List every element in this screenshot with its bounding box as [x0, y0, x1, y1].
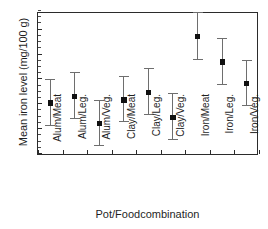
mean-marker	[195, 34, 200, 39]
y-minor-tick	[38, 16, 41, 17]
x-axis-title: Pot/Foodcombination	[37, 208, 258, 220]
mean-marker	[220, 59, 225, 64]
y-minor-tick	[38, 147, 41, 148]
x-tick-label: Clay/Veg.	[176, 94, 186, 158]
y-minor-tick	[38, 134, 41, 135]
x-tick-label: Alum/Veg.	[102, 94, 112, 158]
error-bar-cap-upper	[193, 12, 203, 13]
y-minor-tick	[38, 109, 41, 110]
y-tick-mark	[38, 54, 42, 55]
y-minor-tick	[38, 10, 41, 11]
error-bar-cap-upper	[45, 79, 55, 80]
error-bar-cap-upper	[242, 60, 252, 61]
y-minor-tick	[38, 35, 41, 36]
y-tick-mark	[38, 103, 42, 104]
y-minor-tick	[38, 41, 41, 42]
y-axis-title: Mean iron level (mg/100 g)	[17, 2, 29, 162]
x-tick-label: Iron/Veg.	[250, 94, 260, 158]
x-tick-label: Alum/Meat	[53, 94, 63, 158]
y-tick-mark	[38, 78, 42, 79]
y-minor-tick	[38, 60, 41, 61]
error-bar-cap-lower	[193, 59, 203, 60]
iron-level-errorbar-chart: Mean iron level (mg/100 g) 012345 Alum/M…	[0, 0, 268, 229]
x-tick-label: Clay/Leg.	[152, 94, 162, 158]
y-minor-tick	[38, 91, 41, 92]
mean-marker	[244, 81, 249, 86]
y-minor-tick	[38, 141, 41, 142]
y-tick-mark	[38, 29, 42, 30]
y-minor-tick	[38, 47, 41, 48]
x-tick-label: Iron/Leg.	[225, 94, 235, 158]
y-tick-mark	[38, 128, 42, 129]
error-bar-cap-upper	[70, 72, 80, 73]
y-minor-tick	[38, 85, 41, 86]
x-tick-label: Alum/Leg.	[78, 94, 88, 158]
y-minor-tick	[38, 97, 41, 98]
error-bar-cap-lower	[217, 84, 227, 85]
x-tick-mark	[38, 150, 39, 154]
y-minor-tick	[38, 66, 41, 67]
y-minor-tick	[38, 22, 41, 23]
x-tick-label: Iron/Meat	[201, 94, 211, 158]
y-minor-tick	[38, 122, 41, 123]
x-tick-label: Clay/Meat	[127, 94, 137, 158]
error-bar-cap-upper	[144, 68, 154, 69]
error-bar-cap-upper	[217, 38, 227, 39]
y-minor-tick	[38, 116, 41, 117]
y-minor-tick	[38, 72, 41, 73]
error-bar-cap-upper	[119, 76, 129, 77]
